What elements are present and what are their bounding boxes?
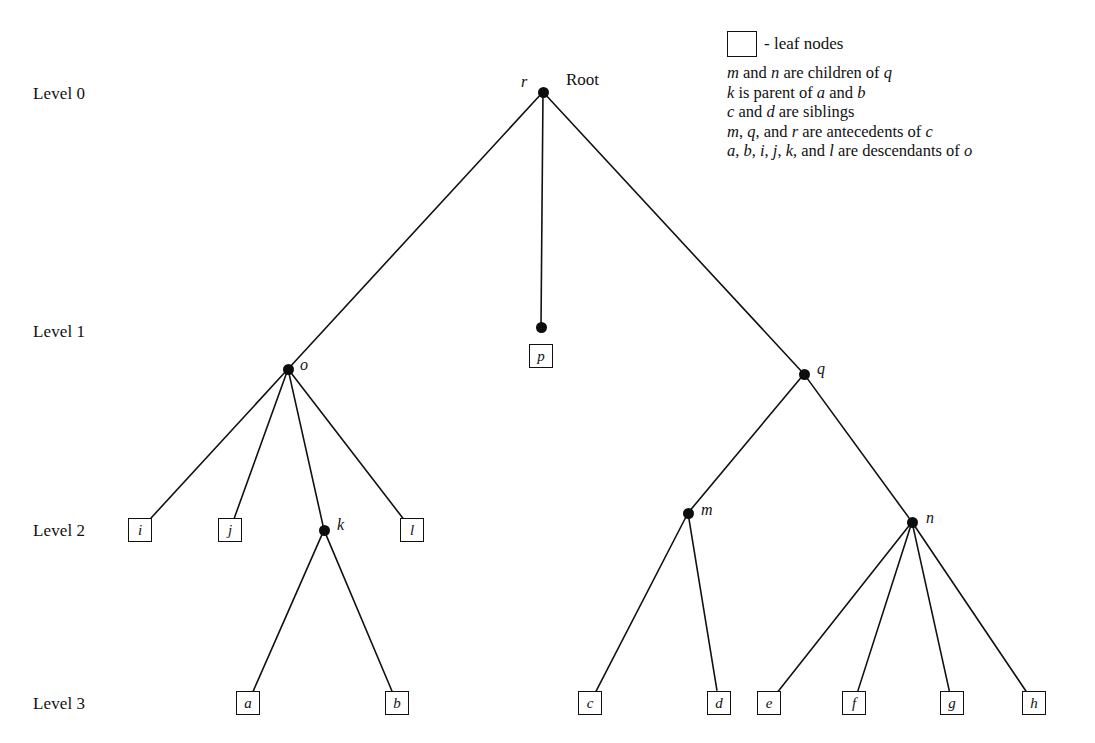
level-label-3: Level 3 xyxy=(33,694,85,714)
legend-note-4: a, b, i, j, k, and l are descendants of … xyxy=(727,141,1087,161)
tree-edge-q-n xyxy=(807,378,910,519)
tree-node-label-o: o xyxy=(300,356,308,374)
tree-node-label-n: n xyxy=(926,509,934,527)
legend-notes-list: m and n are children of qk is parent of … xyxy=(727,63,1087,161)
tree-edge-k-a xyxy=(253,534,322,691)
tree-edge-n-f xyxy=(858,526,911,690)
leaf-node-box-i[interactable]: i xyxy=(128,518,152,542)
tree-node-dot-q[interactable] xyxy=(799,369,810,380)
leaf-node-box-f[interactable]: f xyxy=(842,691,866,715)
level-label-0: Level 0 xyxy=(33,84,85,104)
legend-note-1: k is parent of a and b xyxy=(727,83,1087,103)
leaf-node-box-h[interactable]: h xyxy=(1022,691,1046,715)
legend-leaf-caption: - leaf nodes xyxy=(764,34,843,54)
leaf-node-box-b[interactable]: b xyxy=(385,691,409,715)
tree-diagram-page: Level 0Level 1Level 2Level 3 ropqijklmna… xyxy=(0,0,1095,743)
leaf-node-box-p[interactable]: p xyxy=(529,344,553,368)
legend-note-2: c and d are siblings xyxy=(727,102,1087,122)
leaf-node-box-g[interactable]: g xyxy=(940,691,964,715)
tree-node-label-q: q xyxy=(817,360,825,378)
tree-edge-o-k xyxy=(289,373,323,525)
level-label-1: Level 1 xyxy=(33,322,85,342)
tree-node-label-m: m xyxy=(701,501,713,519)
leaf-node-box-j[interactable]: j xyxy=(218,518,242,542)
root-annotation-label: Root xyxy=(566,70,599,90)
tree-edge-r-p xyxy=(541,96,543,322)
legend-note-0: m and n are children of q xyxy=(727,63,1087,83)
leaf-node-swatch-icon xyxy=(727,31,757,57)
tree-node-dot-m[interactable] xyxy=(683,508,694,519)
tree-edge-k-b xyxy=(326,534,392,691)
tree-node-dot-r[interactable] xyxy=(538,87,549,98)
leaf-node-box-c[interactable]: c xyxy=(578,691,602,715)
tree-edge-o-j xyxy=(234,373,286,518)
level-label-2: Level 2 xyxy=(33,521,85,541)
leaf-node-box-l[interactable]: l xyxy=(400,518,424,542)
tree-edge-q-m xyxy=(691,377,801,509)
leaf-node-box-d[interactable]: d xyxy=(707,691,731,715)
legend-leaf-row: - leaf nodes xyxy=(727,30,1087,58)
tree-edge-m-d xyxy=(689,517,717,690)
legend: - leaf nodes m and n are children of qk … xyxy=(727,30,1087,161)
tree-edge-n-e xyxy=(777,526,909,693)
tree-edge-r-o xyxy=(291,95,540,365)
tree-node-dot-n[interactable] xyxy=(907,517,918,528)
tree-node-label-k: k xyxy=(337,516,344,534)
tree-node-dot-k[interactable] xyxy=(319,525,330,536)
legend-note-3: m, q, and r are antecedents of c xyxy=(727,122,1087,142)
tree-edge-o-l xyxy=(291,373,404,520)
tree-edge-o-i xyxy=(149,372,285,520)
leaf-node-box-a[interactable]: a xyxy=(236,691,260,715)
tree-node-dot-p[interactable] xyxy=(536,322,547,333)
leaf-node-box-e[interactable]: e xyxy=(757,691,781,715)
tree-node-dot-o[interactable] xyxy=(283,364,294,375)
tree-node-label-r: r xyxy=(521,73,527,91)
edge-group xyxy=(149,95,1027,692)
tree-edge-m-c xyxy=(596,517,686,691)
